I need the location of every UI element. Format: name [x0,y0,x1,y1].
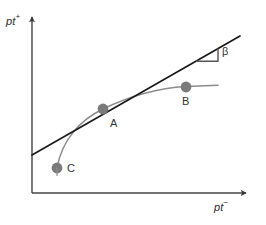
y-axis-label-superscript: + [16,12,21,21]
x-axis-label-text: pt [214,201,224,213]
tangent-line [32,36,240,155]
point-label-a: A [110,118,117,129]
angle-label-beta: β [222,46,228,57]
data-point-a [98,104,109,115]
y-axis-label-text: pt [6,15,16,27]
point-label-c: C [67,163,75,174]
y-axis-label: pt+ [6,16,20,27]
data-point-b [181,82,192,93]
x-axis-label-superscript: − [224,198,229,207]
x-axis-label: pt− [214,202,228,213]
diagram-svg [0,0,266,225]
point-label-b: B [182,96,189,107]
figure-canvas: pt+ pt− A B C β [0,0,266,225]
